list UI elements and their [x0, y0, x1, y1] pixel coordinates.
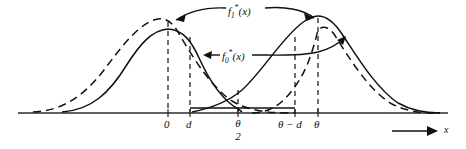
tick-label-theta-denominator: 2 [228, 130, 248, 143]
tick-label-theta-minus-d: θ − d [278, 119, 302, 130]
curve-label-f1-subscript: 1 [231, 11, 235, 20]
curve-solid-left [62, 29, 242, 112]
tick-label-d: d [186, 119, 192, 130]
x-axis-label: x [444, 125, 448, 135]
curve-label-f0-argument: (x) [233, 50, 245, 62]
tick-label-theta-right: θ [314, 119, 319, 130]
annotation-arrowhead-f0-left [203, 51, 212, 59]
tick-label-theta-numerator: θ [228, 117, 248, 130]
figure-canvas: 0 d θ 2 θ − d θ f1*(x) f0*(x) x [0, 0, 466, 149]
tick-label-theta-over-2: θ 2 [228, 117, 248, 142]
tick-label-0-left: 0 [164, 119, 170, 130]
curve-label-f1-argument: (x) [239, 5, 251, 17]
annotation-arrowhead-f1-left [176, 14, 186, 22]
x-axis-direction-arrowhead [427, 126, 438, 136]
curve-solid-right [192, 16, 440, 113]
curve-label-f0-star: f0*(x) [222, 49, 245, 64]
annotation-arrow-f0-right [252, 38, 344, 55]
curve-label-f1-star: f1*(x) [228, 4, 251, 19]
curve-dashed-left [33, 19, 296, 113]
curve-label-f0-subscript: 0 [225, 56, 229, 65]
